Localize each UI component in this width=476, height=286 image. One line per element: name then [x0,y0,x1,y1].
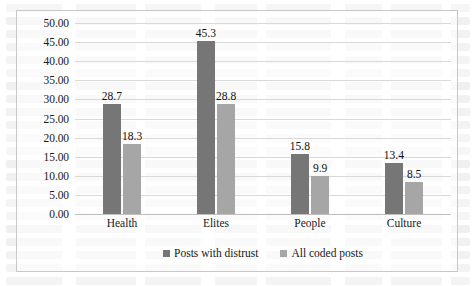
bar-value-label: 15.8 [290,140,310,152]
plot-area: 28.718.345.328.815.89.913.48.5 [75,23,451,214]
bar[interactable] [217,104,235,214]
chart-plot-wrapper: 50.0045.0040.0035.0030.0025.0020.0015.00… [17,11,459,273]
bar-group: 13.48.5 [357,23,451,214]
bar-group: 45.328.8 [169,23,263,214]
bar[interactable] [291,154,309,214]
y-axis-tick-label: 5.00 [49,189,69,201]
y-axis-tick-label: 40.00 [44,55,69,67]
bar-value-label: 9.9 [313,162,327,174]
bar-value-label: 18.3 [122,130,142,142]
legend-swatch-icon [163,250,170,257]
y-axis-tick-label: 50.00 [44,17,69,29]
x-axis: HealthElitesPeopleCulture [75,217,451,237]
bar-value-label: 45.3 [196,27,216,39]
chart-container: 50.0045.0040.0035.0030.0025.0020.0015.00… [16,10,458,272]
bar[interactable] [311,176,329,214]
bar[interactable] [123,144,141,214]
bar[interactable] [385,163,403,214]
bar-value-label: 8.5 [407,168,421,180]
y-axis-tick-label: 45.00 [44,36,69,48]
y-axis-tick-label: 10.00 [44,170,69,182]
y-axis-tick-label: 25.00 [44,113,69,125]
x-axis-category-label: Elites [169,217,263,237]
legend-item[interactable]: Posts with distrust [163,247,258,259]
x-axis-category-label: People [263,217,357,237]
bar-group: 28.718.3 [75,23,169,214]
y-axis-tick-label: 30.00 [44,93,69,105]
y-axis-tick-label: 35.00 [44,74,69,86]
axis-baseline [75,214,451,215]
y-axis-tick-label: 20.00 [44,132,69,144]
legend-label: Posts with distrust [174,247,258,259]
bleedthrough-text-line [6,277,470,285]
bar[interactable] [405,182,423,214]
x-axis-category-label: Culture [357,217,451,237]
legend-item[interactable]: All coded posts [280,247,363,259]
bar-group: 15.89.9 [263,23,357,214]
bar-value-label: 13.4 [384,149,404,161]
chart-legend: Posts with distrustAll coded posts [75,243,451,263]
bar[interactable] [103,104,121,214]
x-axis-category-label: Health [75,217,169,237]
legend-swatch-icon [280,250,287,257]
bar-value-label: 28.8 [216,90,236,102]
y-axis: 50.0045.0040.0035.0030.0025.0020.0015.00… [17,11,75,273]
bar-value-label: 28.7 [102,90,122,102]
y-axis-tick-label: 0.00 [49,208,69,220]
bars-layer: 28.718.345.328.815.89.913.48.5 [75,23,451,214]
bar[interactable] [197,41,215,214]
y-axis-tick-label: 15.00 [44,151,69,163]
legend-label: All coded posts [291,247,363,259]
